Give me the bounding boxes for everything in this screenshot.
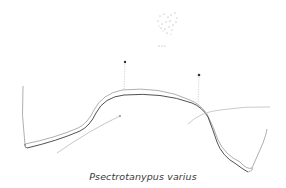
right-faint-arc: [188, 107, 270, 124]
marker-a: [124, 61, 126, 90]
main-outline-upper: [25, 89, 252, 168]
speckle-cluster: [158, 13, 178, 47]
left-edge-line: [22, 86, 25, 145]
lower-left-faint-line: [57, 116, 120, 153]
lower-left-line-end: [119, 115, 121, 117]
right-tip: [248, 129, 267, 172]
main-outline-lower: [27, 94, 248, 172]
left-tip: [25, 144, 27, 148]
specimen-illustration: [0, 0, 286, 188]
figure-caption: Psectrotanypus varius: [0, 171, 286, 182]
marker-b: [198, 74, 201, 102]
